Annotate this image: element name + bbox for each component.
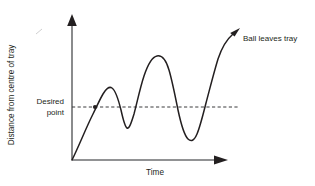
ball-leaves-tray-label: Ball leaves tray [243,34,297,43]
figure-canvas: Distance from centre of tray Time Desire… [0,0,315,186]
x-axis-title: Time [146,168,164,177]
figure-oscillating-response: Distance from centre of tray Time Desire… [0,0,315,186]
arrow-up-icon [67,14,77,26]
scan-artifact-mark [36,29,42,34]
y-axis-title: Distance from centre of tray [7,44,16,145]
desired-point-label-line1: Desired [36,97,64,106]
setpoint-crossing-dot [93,105,97,109]
desired-point-label-line2: point [47,108,65,117]
response-curve [72,34,233,160]
arrow-right-icon [214,155,228,164]
